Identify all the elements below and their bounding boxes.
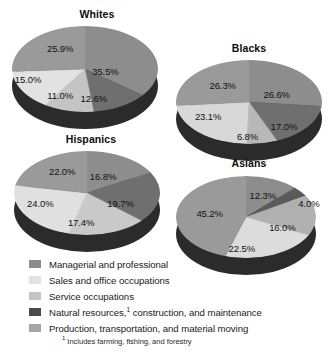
- pie-slice-label-asians-0: 12.3%: [250, 189, 276, 200]
- pie-slice-label-whites-2: 11.0%: [47, 89, 73, 100]
- pie-chart-title-whites: Whites: [12, 8, 182, 20]
- legend: Managerial and professional Sales and of…: [29, 256, 329, 336]
- pie-chart-blacks: Blacks26.6%17.0%6.8%23.1%26.3%: [168, 42, 330, 162]
- pie-chart-title-asians: Asians: [166, 157, 332, 169]
- footnote-text: Includes farming, fishing, and forestry: [65, 337, 191, 346]
- pie-labels-hispanics: 16.8%19.7%17.4%24.0%22.0%: [14, 151, 160, 252]
- legend-label-managerial: Managerial and professional: [49, 259, 168, 270]
- legend-label-natural-resources-prefix: Natural resources,: [49, 307, 126, 318]
- legend-item-sales: Sales and office occupations: [29, 272, 329, 288]
- legend-label-production: Production, transportation, and material…: [49, 323, 248, 334]
- legend-label-sales: Sales and office occupations: [49, 275, 170, 286]
- pie-chart-hispanics: Hispanics16.8%19.7%17.4%24.0%22.0%: [8, 133, 174, 255]
- legend-label-service: Service occupations: [49, 291, 134, 302]
- legend-swatch-service: [29, 292, 41, 300]
- legend-item-production: Production, transportation, and material…: [29, 320, 329, 336]
- pie-body-blacks: 26.6%17.0%6.8%23.1%26.3%: [176, 60, 322, 161]
- footnote: 1 Includes farming, fishing, and forestr…: [62, 337, 192, 346]
- pie-slice-label-hispanics-3: 24.0%: [27, 198, 53, 209]
- legend-item-service: Service occupations: [29, 288, 329, 304]
- pie-slice-label-asians-2: 16.0%: [269, 221, 295, 232]
- pie-slice-label-asians-4: 45.2%: [196, 207, 222, 218]
- pie-slice-label-hispanics-2: 17.4%: [68, 217, 94, 228]
- legend-item-managerial: Managerial and professional: [29, 256, 329, 272]
- pie-labels-whites: 35.5%12.6%11.0%15.0%25.9%: [12, 26, 158, 129]
- pie-slice-label-hispanics-4: 22.0%: [49, 166, 75, 177]
- pie-body-hispanics: 16.8%19.7%17.4%24.0%22.0%: [14, 151, 160, 252]
- pie-slice-label-blacks-0: 26.6%: [264, 89, 290, 100]
- pie-labels-blacks: 26.6%17.0%6.8%23.1%26.3%: [176, 60, 322, 161]
- legend-label-natural-resources-suffix: construction, and maintenance: [130, 307, 262, 318]
- legend-item-natural-resources: Natural resources,1 construction, and ma…: [29, 304, 329, 320]
- pie-slice-label-whites-4: 25.9%: [47, 42, 73, 53]
- legend-swatch-natural-resources: [29, 308, 41, 316]
- pie-chart-whites: Whites35.5%12.6%11.0%15.0%25.9%: [12, 8, 182, 136]
- legend-label-natural-resources: Natural resources,1 construction, and ma…: [49, 307, 262, 318]
- pie-slice-label-blacks-1: 17.0%: [271, 120, 297, 131]
- pie-slice-label-blacks-3: 23.1%: [195, 111, 221, 122]
- pie-slice-label-blacks-2: 6.8%: [237, 130, 258, 141]
- pie-slice-label-blacks-4: 26.3%: [210, 80, 236, 91]
- pie-slice-label-hispanics-1: 19.7%: [107, 198, 133, 209]
- pie-slice-label-whites-0: 35.5%: [92, 65, 118, 76]
- pie-chart-title-hispanics: Hispanics: [8, 133, 174, 145]
- pie-slice-label-whites-1: 12.6%: [81, 93, 107, 104]
- pie-slice-label-whites-3: 15.0%: [15, 74, 41, 85]
- pie-chart-title-blacks: Blacks: [168, 42, 330, 54]
- occupation-distribution-figure: Whites35.5%12.6%11.0%15.0%25.9%Blacks26.…: [0, 0, 333, 360]
- legend-swatch-production: [29, 324, 41, 332]
- pie-body-whites: 35.5%12.6%11.0%15.0%25.9%: [12, 26, 158, 129]
- legend-swatch-managerial: [29, 260, 41, 268]
- pie-slice-label-asians-1: 4.0%: [298, 198, 319, 209]
- legend-swatch-sales: [29, 276, 41, 284]
- pie-slice-label-asians-3: 22.5%: [229, 243, 255, 254]
- pie-slice-label-hispanics-0: 16.8%: [90, 171, 116, 182]
